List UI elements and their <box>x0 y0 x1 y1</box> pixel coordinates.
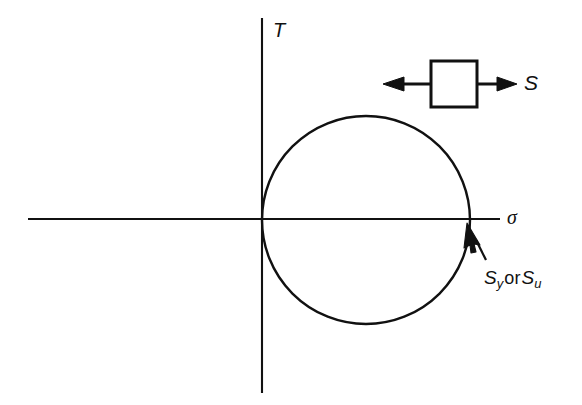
stress-element-square <box>431 61 477 107</box>
strength-callout-pointer <box>464 223 486 260</box>
strength-callout-label: SyorSu <box>484 268 542 290</box>
strength-subscript-ultimate: u <box>534 276 541 291</box>
figure-canvas <box>0 0 582 405</box>
strength-conjunction: or <box>503 268 521 288</box>
shear-axis-label: T <box>273 20 285 40</box>
normal-axis-label: σ <box>507 207 517 227</box>
strength-symbol-yield: S <box>484 267 497 288</box>
tension-arrow-left <box>383 77 431 91</box>
stress-diagram-figure: T σ S SyorSu <box>0 0 582 405</box>
strength-symbol-ultimate: S <box>522 267 535 288</box>
tension-arrow-right <box>477 77 517 91</box>
applied-load-label: S <box>524 72 538 93</box>
